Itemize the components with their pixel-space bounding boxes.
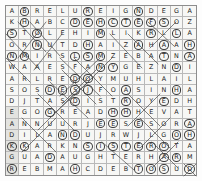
grid-cell[interactable]: R bbox=[145, 141, 158, 152]
grid-cell[interactable]: H bbox=[145, 152, 158, 163]
grid-cell[interactable]: I bbox=[82, 29, 95, 40]
grid-cell[interactable]: A bbox=[44, 96, 57, 107]
grid-cell[interactable]: A bbox=[57, 152, 70, 163]
grid-cell[interactable]: A bbox=[82, 107, 95, 118]
grid-cell[interactable]: L bbox=[31, 130, 44, 141]
grid-cell[interactable]: U bbox=[44, 40, 57, 51]
grid-cell[interactable]: A bbox=[57, 164, 70, 175]
grid-cell[interactable]: I bbox=[145, 85, 158, 96]
grid-cell[interactable]: I bbox=[107, 6, 120, 17]
grid-cell[interactable]: O bbox=[158, 119, 171, 130]
grid-cell[interactable]: A bbox=[145, 51, 158, 62]
grid-cell[interactable]: T bbox=[158, 51, 171, 62]
grid-cell[interactable]: A bbox=[171, 107, 184, 118]
grid-cell[interactable]: E bbox=[6, 107, 19, 118]
grid-cell[interactable]: L bbox=[158, 29, 171, 40]
grid-cell[interactable]: E bbox=[107, 164, 120, 175]
grid-cell[interactable]: S bbox=[57, 96, 70, 107]
grid-cell[interactable]: W bbox=[6, 62, 19, 73]
grid-cell[interactable]: F bbox=[145, 17, 158, 28]
grid-cell[interactable]: S bbox=[6, 85, 19, 96]
grid-cell[interactable]: N bbox=[57, 130, 70, 141]
grid-cell[interactable]: D bbox=[95, 164, 108, 175]
grid-cell[interactable]: R bbox=[44, 141, 57, 152]
grid-cell[interactable]: D bbox=[171, 62, 184, 73]
grid-cell[interactable]: E bbox=[44, 6, 57, 17]
grid-cell[interactable]: G bbox=[120, 6, 133, 17]
grid-cell[interactable]: H bbox=[95, 17, 108, 28]
grid-cell[interactable]: A bbox=[82, 62, 95, 73]
grid-cell[interactable]: E bbox=[57, 29, 70, 40]
grid-cell[interactable]: T bbox=[107, 96, 120, 107]
grid-cell[interactable]: R bbox=[145, 29, 158, 40]
letter-grid[interactable]: ABRELUREIGNDEGAKHABCDEHCTEFSOZSTOLEHIMLI… bbox=[5, 5, 197, 176]
grid-cell[interactable]: J bbox=[82, 85, 95, 96]
grid-cell[interactable]: H bbox=[171, 85, 184, 96]
grid-cell[interactable]: E bbox=[133, 62, 146, 73]
grid-cell[interactable]: S bbox=[145, 119, 158, 130]
grid-cell[interactable]: R bbox=[107, 130, 120, 141]
grid-cell[interactable]: U bbox=[120, 74, 133, 85]
grid-cell[interactable]: D bbox=[69, 17, 82, 28]
grid-cell[interactable]: D bbox=[44, 85, 57, 96]
grid-cell[interactable]: I bbox=[31, 51, 44, 62]
grid-cell[interactable]: K bbox=[19, 141, 32, 152]
grid-cell[interactable]: L bbox=[57, 6, 70, 17]
grid-cell[interactable]: E bbox=[57, 74, 70, 85]
grid-cell[interactable]: I bbox=[82, 96, 95, 107]
grid-cell[interactable]: V bbox=[158, 107, 171, 118]
grid-cell[interactable]: K bbox=[6, 17, 19, 28]
grid-cell[interactable]: G bbox=[6, 152, 19, 163]
grid-cell[interactable]: S bbox=[57, 62, 70, 73]
grid-cell[interactable]: D bbox=[69, 130, 82, 141]
grid-cell[interactable]: N bbox=[95, 62, 108, 73]
grid-cell[interactable]: H bbox=[69, 164, 82, 175]
grid-cell[interactable]: L bbox=[171, 29, 184, 40]
grid-cell[interactable]: T bbox=[120, 17, 133, 28]
grid-cell[interactable]: O bbox=[82, 74, 95, 85]
grid-cell[interactable]: R bbox=[31, 6, 44, 17]
grid-cell[interactable]: M bbox=[44, 164, 57, 175]
grid-cell[interactable]: L bbox=[145, 74, 158, 85]
grid-cell[interactable]: U bbox=[171, 164, 184, 175]
grid-cell[interactable]: D bbox=[6, 96, 19, 107]
grid-cell[interactable]: I bbox=[107, 40, 120, 51]
grid-cell[interactable]: H bbox=[133, 107, 146, 118]
grid-cell[interactable]: U bbox=[82, 130, 95, 141]
grid-cell[interactable]: I bbox=[95, 141, 108, 152]
grid-cell[interactable]: S bbox=[82, 51, 95, 62]
grid-cell[interactable]: A bbox=[183, 29, 196, 40]
grid-cell[interactable]: J bbox=[133, 130, 146, 141]
grid-cell[interactable]: A bbox=[183, 141, 196, 152]
grid-cell[interactable]: Z bbox=[183, 17, 196, 28]
grid-cell[interactable]: D bbox=[69, 74, 82, 85]
grid-cell[interactable]: H bbox=[183, 130, 196, 141]
grid-cell[interactable]: M bbox=[95, 51, 108, 62]
grid-cell[interactable]: C bbox=[107, 17, 120, 28]
grid-cell[interactable]: G bbox=[44, 107, 57, 118]
grid-cell[interactable]: Y bbox=[107, 62, 120, 73]
grid-cell[interactable]: U bbox=[44, 119, 57, 130]
grid-cell[interactable]: C bbox=[57, 17, 70, 28]
grid-cell[interactable]: A bbox=[6, 74, 19, 85]
grid-cell[interactable]: A bbox=[31, 152, 44, 163]
grid-cell[interactable]: G bbox=[19, 107, 32, 118]
grid-cell[interactable]: N bbox=[31, 119, 44, 130]
grid-cell[interactable]: H bbox=[120, 107, 133, 118]
grid-cell[interactable]: E bbox=[120, 51, 133, 62]
grid-cell[interactable]: A bbox=[6, 6, 19, 17]
grid-cell[interactable]: G bbox=[158, 130, 171, 141]
grid-cell[interactable]: D bbox=[44, 152, 57, 163]
grid-cell[interactable]: A bbox=[19, 62, 32, 73]
grid-cell[interactable]: A bbox=[183, 6, 196, 17]
grid-cell[interactable]: R bbox=[171, 119, 184, 130]
grid-cell[interactable]: T bbox=[171, 141, 184, 152]
grid-cell[interactable]: E bbox=[120, 152, 133, 163]
grid-cell[interactable]: A bbox=[120, 85, 133, 96]
grid-cell[interactable]: S bbox=[69, 85, 82, 96]
grid-cell[interactable]: S bbox=[120, 119, 133, 130]
grid-cell[interactable]: L bbox=[145, 130, 158, 141]
grid-cell[interactable]: N bbox=[133, 6, 146, 17]
grid-cell[interactable]: A bbox=[95, 40, 108, 51]
grid-cell[interactable]: E bbox=[44, 62, 57, 73]
